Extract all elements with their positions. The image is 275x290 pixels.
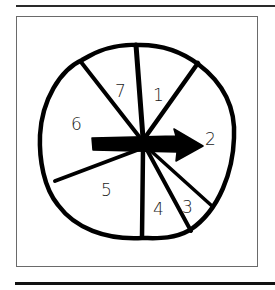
sector-label-6: 6: [71, 114, 82, 134]
spinner-figure: 1 2 3 4 5 6 7: [0, 0, 275, 290]
bottom-rule-divider: [15, 282, 275, 285]
divider-5-6: [55, 149, 140, 181]
divider-6-7: [81, 62, 141, 139]
divider-4-5: [142, 150, 143, 237]
divider-7-1: [136, 45, 143, 138]
sector-label-3: 3: [182, 197, 193, 217]
spinner-wheel: 1 2 3 4 5 6 7: [0, 0, 275, 290]
sector-label-7: 7: [115, 81, 126, 101]
sector-label-1: 1: [153, 85, 164, 105]
sector-label-4: 4: [153, 199, 164, 219]
sector-label-2: 2: [205, 129, 216, 149]
sector-label-5: 5: [101, 180, 112, 200]
